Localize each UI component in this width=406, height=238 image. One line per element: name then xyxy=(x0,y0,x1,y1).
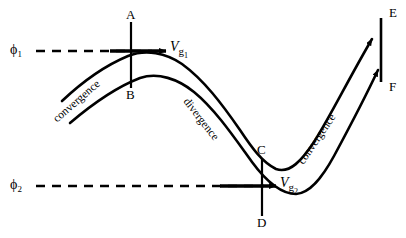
label-point-d: D xyxy=(257,216,266,229)
vg2-v-symbol: V xyxy=(280,175,289,190)
label-point-b: B xyxy=(126,88,135,101)
wave-ray-diagram: A B C D E F ϕ1 ϕ2 Vg1 Vg2 convergence di… xyxy=(0,0,406,238)
vg1-v-symbol: V xyxy=(170,39,179,54)
vg1-g-subscript: g1 xyxy=(179,45,189,57)
label-point-a: A xyxy=(126,8,135,21)
phi2-subscript: 2 xyxy=(17,184,22,194)
label-phi2: ϕ2 xyxy=(10,178,22,194)
vg2-index: 2 xyxy=(294,187,298,196)
label-point-c: C xyxy=(257,143,266,156)
lower-ray-curve xyxy=(70,70,378,194)
vg1-index: 1 xyxy=(184,51,188,60)
upper-ray-curve xyxy=(62,39,372,170)
label-point-e: E xyxy=(389,6,397,19)
label-phi1: ϕ1 xyxy=(10,43,22,59)
label-vg2: Vg2 xyxy=(280,176,298,196)
label-vg1: Vg1 xyxy=(170,40,188,60)
label-point-f: F xyxy=(389,80,396,93)
phi1-subscript: 1 xyxy=(17,49,22,59)
vg2-g-subscript: g2 xyxy=(289,181,299,193)
